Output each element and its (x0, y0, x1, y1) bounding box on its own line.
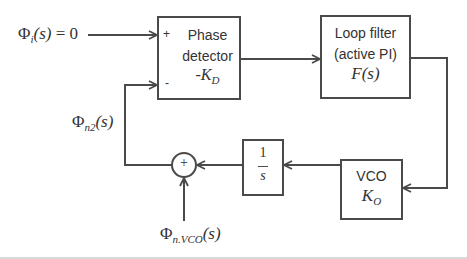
pd-label-line1: Phase (175, 27, 240, 43)
feedback-arrow (125, 85, 172, 165)
filter-transfer: F(s) (321, 64, 410, 84)
feedback-signal-label: Φn2(s) (72, 112, 113, 133)
pd-gain: -KD (175, 66, 240, 86)
integrator-denominator: s (243, 168, 283, 184)
integrator-numerator: 1 (243, 145, 283, 161)
pd-label-line2: detector (175, 48, 240, 64)
vco-label: VCO (341, 168, 402, 184)
integrator-fraction-bar (258, 166, 268, 167)
filter-label-line2: (active PI) (321, 46, 410, 62)
pd-minus-port: - (165, 76, 169, 90)
input-signal-label: Φi(s) = 0 (18, 24, 78, 45)
pd-plus-port: + (163, 27, 170, 41)
filter-label-line1: Loop filter (321, 25, 410, 41)
vco-noise-label: Φn.VCO(s) (160, 224, 221, 245)
summer-plus-sign: + (174, 155, 194, 171)
vco-gain: KO (341, 186, 402, 207)
